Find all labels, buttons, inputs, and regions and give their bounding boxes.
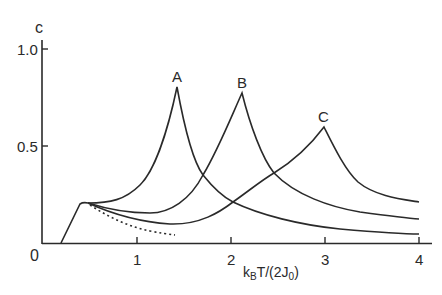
- origin-label: 0: [30, 248, 39, 264]
- x-tick-label-4: 4: [415, 252, 423, 267]
- x-title-end: ): [294, 264, 299, 280]
- peak-label-b: B: [237, 75, 247, 90]
- y-axis-label: c: [35, 20, 43, 36]
- x-tick-label-1: 1: [133, 252, 141, 267]
- curve-common-rise: [61, 203, 88, 243]
- chart-canvas: [0, 0, 442, 295]
- curve-c: [88, 127, 419, 224]
- peak-label-c: C: [318, 109, 329, 124]
- peak-label-a: A: [172, 69, 182, 84]
- x-title-k: k: [243, 264, 250, 280]
- y-tick-label-1.0: 1.0: [17, 42, 38, 57]
- y-tick-label-0.5: 0.5: [17, 139, 38, 154]
- x-title-sub-b: B: [250, 271, 257, 282]
- x-tick-label-3: 3: [321, 252, 329, 267]
- x-tick-label-2: 2: [227, 252, 235, 267]
- x-title-t: T/(2J: [257, 264, 289, 280]
- curve-b: [88, 93, 419, 219]
- x-axis-title: kBT/(2J0): [243, 264, 299, 282]
